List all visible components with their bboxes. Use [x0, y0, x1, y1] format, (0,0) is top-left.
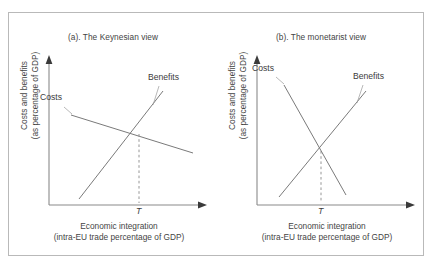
x-axis-label-b-line1: Economic integration: [288, 221, 365, 231]
costs-curve-a: [71, 115, 193, 153]
x-axis-arrow-a: [198, 202, 207, 209]
benefits-leader-b: [357, 85, 363, 103]
costs-curve-b: [284, 85, 346, 195]
x-axis-label-a-line1: Economic integration: [80, 221, 157, 231]
x-axis-label-b: Economic integration (intra-EU trade per…: [229, 221, 425, 242]
benefits-curve-b: [279, 91, 366, 197]
chart-panel-monetarist: (b). The monetarist view Costs and benef…: [217, 13, 425, 257]
costs-leader-a: [64, 107, 72, 114]
x-axis-label-a-line2: (intra-EU trade percentage of GDP): [54, 232, 185, 242]
x-axis-label-b-line2: (intra-EU trade percentage of GDP): [262, 232, 393, 242]
figure-container: (a). The Keynesian view Costs and benefi…: [8, 12, 424, 256]
x-axis-arrow-b: [406, 202, 415, 209]
x-axis-label-a: Economic integration (intra-EU trade per…: [21, 221, 217, 242]
threshold-label-a: T: [136, 206, 141, 216]
benefits-curve-a: [79, 91, 163, 199]
benefits-label-b: Benefits: [353, 71, 384, 81]
benefits-leader-a: [153, 86, 159, 105]
costs-leader-b: [276, 77, 284, 84]
chart-panel-keynesian: (a). The Keynesian view Costs and benefi…: [9, 13, 217, 257]
threshold-label-b: T: [318, 206, 323, 216]
costs-label-b: Costs: [252, 63, 274, 73]
benefits-label-a: Benefits: [148, 72, 179, 82]
costs-label-a: Costs: [40, 92, 62, 102]
y-axis-arrow-a: [46, 55, 53, 64]
